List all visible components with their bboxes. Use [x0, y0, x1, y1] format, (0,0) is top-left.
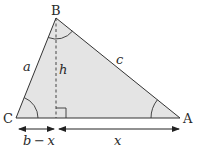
side-label-c: c	[116, 52, 124, 67]
altitude-label-h: h	[59, 62, 67, 77]
vertex-label-a: A	[182, 111, 193, 126]
dimension-label-x: x	[114, 133, 122, 148]
vertex-label-b: B	[51, 3, 61, 18]
side-label-a: a	[23, 59, 31, 74]
vertex-label-c: C	[3, 111, 13, 126]
dimension-label-b-minus-x: b − x	[23, 133, 55, 148]
triangle-diagram: B C A a c h b − x x	[0, 0, 199, 149]
